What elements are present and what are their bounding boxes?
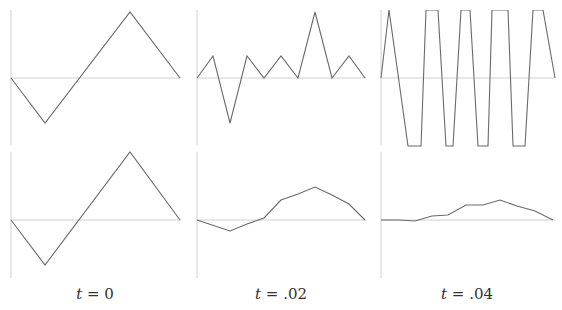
panel-top-t0 (11, 10, 181, 145)
curve (381, 200, 553, 221)
panel-bottom-t02 (197, 152, 366, 278)
figure-canvas (0, 0, 562, 310)
curve (11, 152, 180, 265)
panel-bottom-t0 (11, 152, 181, 278)
curve (197, 187, 365, 231)
label-value: = .02 (261, 285, 307, 303)
panel-bottom-t04 (381, 152, 555, 278)
column-label-t04: t = .04 (441, 285, 493, 303)
column-label-t0: t = 0 (76, 285, 114, 303)
label-value: = .04 (447, 285, 493, 303)
panel-top-t02 (197, 10, 366, 145)
label-value: = 0 (82, 285, 114, 303)
column-label-t02: t = .02 (255, 285, 307, 303)
curve (11, 12, 180, 123)
curve (197, 12, 365, 123)
panel-top-t04 (381, 10, 555, 146)
